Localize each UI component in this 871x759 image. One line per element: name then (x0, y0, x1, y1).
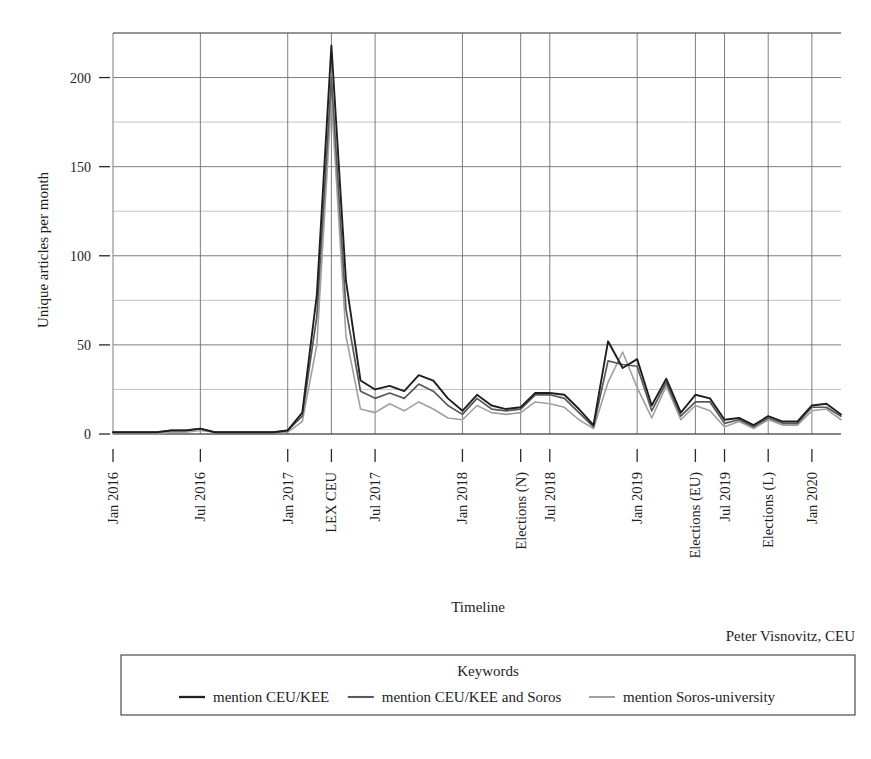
legend-title: Keywords (457, 663, 519, 679)
x-tick-label: LEX CEU (323, 471, 339, 532)
series-line (113, 45, 841, 432)
series-line (113, 99, 841, 434)
x-tick-label: Elections (L) (760, 472, 777, 548)
y-tick-label: 0 (84, 427, 91, 442)
y-tick-label: 50 (77, 338, 91, 353)
x-tick-label: Jan 2016 (105, 472, 121, 524)
x-tick-label: Elections (EU) (687, 472, 704, 559)
legend-item-label: mention Soros-university (623, 689, 776, 705)
legend-item-label: mention CEU/KEE (213, 689, 329, 705)
axis-lines (113, 33, 841, 434)
y-tick-marks (99, 78, 110, 434)
x-tick-labels: Jan 2016Jul 2016Jan 2017LEX CEUJul 2017J… (105, 471, 820, 558)
legend-entries: mention CEU/KEEmention CEU/KEE and Soros… (179, 689, 776, 705)
y-tick-label: 200 (70, 71, 91, 86)
line-chart-canvas: 050100150200 Jan 2016Jul 2016Jan 2017LEX… (0, 0, 871, 759)
attribution-label: Peter Visnovitz, CEU (726, 628, 855, 644)
series-lines (113, 45, 841, 434)
x-tick-label: Jul 2019 (717, 472, 733, 522)
y-tick-label: 150 (70, 160, 91, 175)
series-line (113, 78, 841, 433)
x-tick-label: Jan 2017 (280, 472, 296, 524)
x-tick-label: Jan 2018 (454, 472, 470, 524)
y-axis-title: Unique articles per month (35, 171, 51, 328)
x-tick-label: Jul 2017 (367, 472, 383, 522)
y-tick-label: 100 (70, 249, 91, 264)
x-axis-title: Timeline (451, 599, 505, 615)
x-tick-label: Jul 2018 (542, 472, 558, 522)
x-tick-label: Elections (N) (513, 472, 530, 550)
x-tick-label: Jan 2020 (804, 472, 820, 524)
x-tick-label: Jul 2016 (192, 472, 208, 522)
legend-item-label: mention CEU/KEE and Soros (382, 689, 562, 705)
y-tick-labels: 050100150200 (70, 71, 91, 442)
x-tick-marks (113, 449, 812, 462)
chart-figure: 050100150200 Jan 2016Jul 2016Jan 2017LEX… (0, 0, 871, 759)
x-tick-label: Jan 2019 (629, 472, 645, 524)
gridlines (113, 33, 841, 434)
